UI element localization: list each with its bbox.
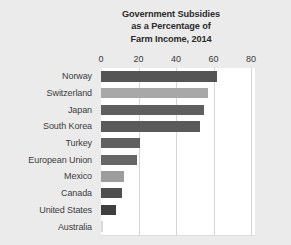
x-axis-tick-labels: 020406080	[0, 54, 291, 68]
bar-japan	[101, 105, 204, 115]
category-label: Canada	[61, 188, 92, 198]
bar-turkey	[101, 138, 140, 148]
category-label: European Union	[28, 155, 92, 165]
bar-australia	[101, 221, 103, 231]
y-axis-category-labels: NorwaySwitzerlandJapanSouth KoreaTurkeyE…	[0, 68, 97, 235]
chart-title: Government Subsidies as a Percentage of …	[78, 8, 264, 45]
category-label-row: South Korea	[0, 118, 97, 135]
category-label-row: Mexico	[0, 168, 97, 185]
category-label-row: Canada	[0, 185, 97, 202]
chart-title-line-2: as a Percentage of	[78, 20, 264, 32]
category-label: South Korea	[43, 121, 92, 131]
bar-series	[101, 68, 255, 235]
x-axis-tick-60: 60	[200, 54, 228, 64]
category-label: Mexico	[64, 171, 92, 181]
bar-norway	[101, 71, 217, 81]
category-label-row: Norway	[0, 68, 97, 85]
category-label-row: Australia	[0, 218, 97, 235]
bar-mexico	[101, 171, 124, 181]
category-label-row: Turkey	[0, 135, 97, 152]
chart-title-line-1: Government Subsidies	[78, 8, 264, 20]
bar-row	[101, 218, 255, 235]
bar-row	[101, 168, 255, 185]
category-label-row: Switzerland	[0, 85, 97, 102]
x-axis-tick-80: 80	[237, 54, 265, 64]
category-label-row: United States	[0, 202, 97, 219]
category-label: Japan	[68, 105, 92, 115]
chart-title-line-3: Farm Income, 2014	[78, 33, 264, 45]
bar-row	[101, 68, 255, 85]
x-axis-tick-20: 20	[125, 54, 153, 64]
x-axis-tick-40: 40	[162, 54, 190, 64]
bar-canada	[101, 188, 122, 198]
plot-area	[101, 68, 255, 235]
bar-switzerland	[101, 88, 208, 98]
x-axis-tick-0: 0	[87, 54, 115, 64]
bar-row	[101, 185, 255, 202]
bar-row	[101, 118, 255, 135]
category-label: Switzerland	[47, 88, 92, 98]
bar-row	[101, 85, 255, 102]
bar-south-korea	[101, 121, 200, 131]
category-label-row: European Union	[0, 151, 97, 168]
chart-figure: Government Subsidies as a Percentage of …	[0, 0, 291, 245]
bar-row	[101, 101, 255, 118]
category-label: Australia	[58, 222, 92, 232]
category-label: Norway	[62, 71, 92, 81]
bar-united-states	[101, 205, 116, 215]
bar-european-union	[101, 155, 137, 165]
category-label-row: Japan	[0, 101, 97, 118]
plot-bottom-border	[101, 235, 255, 236]
bar-row	[101, 135, 255, 152]
bar-row	[101, 151, 255, 168]
category-label: Turkey	[65, 138, 92, 148]
category-label: United States	[39, 205, 92, 215]
bar-row	[101, 202, 255, 219]
